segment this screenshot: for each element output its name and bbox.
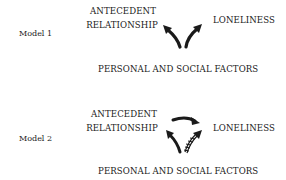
- arrow-up-left-icon: [166, 130, 180, 152]
- arrow-right-icon: [173, 117, 200, 125]
- model-2-arrows: [0, 0, 286, 180]
- hatched-arrow-up-right-icon: [184, 130, 202, 153]
